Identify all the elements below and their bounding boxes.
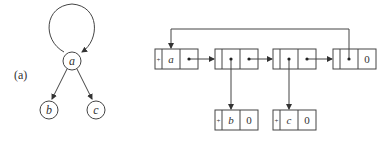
linked-list (155, 29, 376, 130)
diagram-canvas: a b c (a) (0, 0, 389, 143)
cell-1-tag: + (157, 56, 161, 64)
self-loop-edge (49, 4, 94, 52)
cell-b-terminator: 0 (246, 114, 252, 126)
cell-4-terminator: 0 (364, 53, 370, 65)
cell-1-value: a (168, 53, 174, 65)
cell-b-value: b (228, 114, 234, 126)
cell-c-value: c (287, 114, 292, 126)
node-c-label: c (93, 103, 99, 117)
cell-c-tag: + (275, 117, 279, 125)
figure-label: (a) (14, 68, 27, 82)
edge-a-c (77, 69, 92, 99)
node-a-label: a (69, 54, 75, 68)
cell-b-tag: + (217, 117, 221, 125)
edge-a-b (52, 69, 67, 99)
node-b-label: b (46, 103, 52, 117)
cell-c-terminator: 0 (304, 114, 310, 126)
